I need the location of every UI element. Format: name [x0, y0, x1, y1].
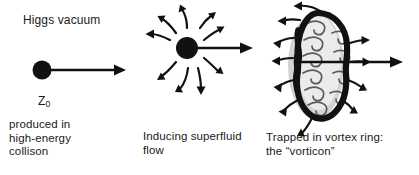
panel-superfluid-flow: Inducing superfluid flow	[132, 0, 268, 175]
particle-label-z0: Z0	[38, 95, 50, 111]
vortex-ring-front-overlap	[297, 52, 299, 72]
panel-vortex-ring: Trapped in vortex ring: the “vorticon”	[262, 0, 419, 175]
panel-higgs-vacuum: Higgs vacuum Z0 produced in high-energy …	[0, 0, 140, 175]
panel-caption-vortex-ring: Trapped in vortex ring: the “vorticon”	[266, 131, 383, 158]
particle-label-z0-subscript: 0	[45, 99, 50, 109]
panel-caption-higgs-vacuum: produced in high-energy collison	[9, 118, 71, 159]
right-arrow-icon	[191, 42, 253, 53]
panel-caption-superfluid-flow: Inducing superfluid flow	[143, 130, 242, 157]
figure-root: Higgs vacuum Z0 produced in high-energy …	[0, 0, 419, 175]
right-arrow-icon	[46, 65, 126, 76]
